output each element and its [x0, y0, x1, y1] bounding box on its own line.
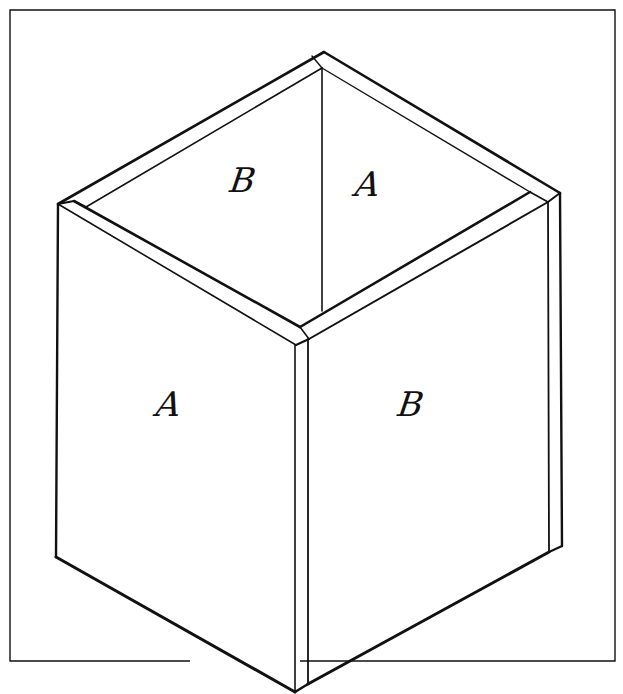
box-drawing	[0, 0, 623, 694]
label-outer-front-right: B	[396, 387, 426, 421]
label-inner-back-left: B	[228, 163, 258, 197]
frame-border	[10, 10, 615, 661]
label-inner-back-right: A	[353, 167, 382, 201]
box-diagram: B A A B	[0, 0, 623, 694]
label-outer-front-left: A	[154, 387, 183, 421]
